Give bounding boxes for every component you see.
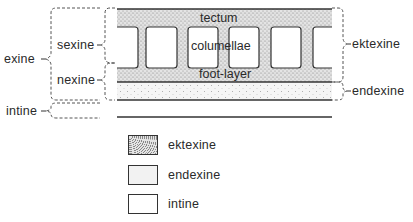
legend-item-endexine: endexine [128,164,220,186]
nexine-brace [101,63,115,100]
legend-label: endexine [168,168,220,182]
ektexine-swatch [128,135,158,155]
legend-item-ektexine: ektexine [128,134,216,156]
columellae-label: columellae [191,40,251,53]
wall-strata-drawing [0,0,413,222]
sexine-brace [101,8,115,63]
exine-label: exine [4,53,35,66]
legend-label: ektexine [168,138,216,152]
intine-label: intine [6,105,37,118]
endexine-brace [332,82,347,100]
nexine-label: nexine [57,74,95,87]
legend-label: intine [168,197,199,211]
ektexine-label: ektexine [352,38,400,51]
ektexine-brace [332,8,347,82]
legend-item-intine: intine [128,193,199,215]
tectum-label: tectum [200,12,238,25]
intine-swatch [128,194,158,214]
pollen-wall-diagram: tectum columellae foot-layer exine sexin… [0,0,413,222]
endexine-layer [117,83,332,100]
foot-layer-label: foot-layer [199,68,251,81]
sexine-label: sexine [57,39,94,52]
endexine-label: endexine [352,85,404,98]
intine-brace [46,103,100,118]
endexine-swatch [128,165,158,185]
